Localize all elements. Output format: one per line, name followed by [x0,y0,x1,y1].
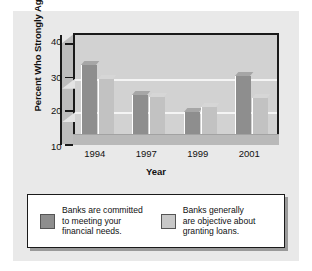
y-axis-tick-mark [65,110,73,112]
bar [98,79,113,142]
legend-label: Banks are committed to meeting your fina… [62,205,143,237]
bar-top [149,93,167,97]
plot-area: Percent Who Strongly Agree 10203040 1994… [13,11,299,161]
y-axis-tick-mark [65,43,73,45]
y-axis-tick-mark [65,77,73,79]
bar [81,65,96,142]
x-axis-tick-label: 2001 [239,148,260,159]
plot-frame [73,33,279,144]
bar-face [98,79,114,142]
x-axis-title: Year [13,166,299,177]
plot-floor [73,134,279,145]
legend-item: Banks are committed to meeting your fina… [40,205,143,237]
chart-legend: Banks are committed to meeting your fina… [27,194,285,248]
y-axis-title: Percent Who Strongly Agree [32,2,43,112]
legend-swatch [40,214,55,229]
legend-item: Banks generally are objective about gran… [161,205,256,237]
y-axis-tick-mark [65,144,73,146]
chart-figure: Percent Who Strongly Agree 10203040 1994… [0,0,312,271]
bar-top [81,61,99,65]
x-axis-tick-label: 1994 [84,148,105,159]
bar-face [235,76,251,142]
legend-label: Banks generally are objective about gran… [183,205,256,237]
bar-face [81,65,97,142]
bar [235,76,250,142]
bar-top [98,75,116,79]
bar-layer [75,35,277,142]
plot-left-wall-edge [60,35,62,145]
bar-top [184,108,202,112]
legend-swatch [161,214,176,229]
bar-top [201,103,219,107]
x-axis-tick-label: 1999 [187,148,208,159]
x-axis-tick-label: 1997 [136,148,157,159]
